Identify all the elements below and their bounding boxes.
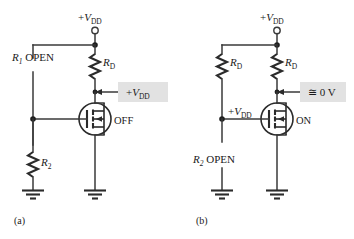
supply-label-a: +VDD: [78, 11, 102, 26]
caption-a: (a): [14, 215, 25, 227]
state-label-a: OFF: [114, 115, 133, 126]
figure-root: +VDD R1 OPEN RD R2 +VDD OFF (a): [0, 0, 354, 239]
panel-a: +VDD R1 OPEN RD R2 +VDD OFF (a): [11, 11, 168, 227]
ground-source-b: [266, 191, 288, 199]
rd-label-a: RD: [102, 56, 116, 71]
circuit-diagram: +VDD R1 OPEN RD R2 +VDD OFF (a): [0, 0, 354, 239]
resistor-rd-right-b: [272, 47, 282, 92]
callout-label-b: ≅ 0 V: [308, 86, 336, 98]
supply-terminal-b: [274, 27, 280, 33]
r2-label-a: R2: [40, 156, 52, 171]
caption-b: (b): [196, 215, 208, 227]
mosfet-a: [79, 103, 111, 135]
ground-r2-a: [22, 191, 44, 199]
rd-right-label-b: RD: [284, 56, 298, 71]
ground-r2-b: [211, 191, 233, 199]
resistor-rd-left-b: [217, 45, 227, 119]
mosfet-b-body-arrow: [278, 116, 284, 122]
resistor-r2-a: [28, 119, 38, 190]
ground-source-a: [84, 191, 106, 199]
mosfet-a-body-arrow: [96, 116, 102, 122]
state-label-b: ON: [296, 115, 312, 126]
supply-label-b: +VDD: [260, 11, 284, 26]
rd-left-label-b: RD: [229, 56, 243, 71]
gate-label-b: +VDD: [228, 105, 252, 120]
mosfet-b: [261, 103, 293, 135]
r2-open-label-b: R2 OPEN: [192, 153, 235, 168]
resistor-rd-a: [90, 47, 100, 92]
panel-b: +VDD RD RD ≅ 0 V +VDD R2 OPEN ON (b): [192, 11, 346, 227]
supply-terminal-a: [92, 27, 98, 33]
r1-open-label-a: R1 OPEN: [11, 51, 54, 66]
